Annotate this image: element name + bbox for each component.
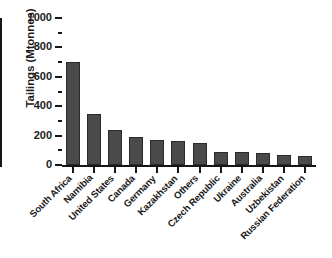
bar (108, 130, 122, 165)
x-axis-tick (177, 167, 179, 173)
bar (277, 155, 291, 165)
x-axis-line (62, 165, 316, 167)
y-axis-tick-minor (58, 149, 62, 151)
y-axis-tick-major (55, 135, 62, 137)
x-axis-tick (199, 167, 201, 173)
bar (235, 152, 249, 165)
x-axis-tick (304, 167, 306, 173)
y-axis-tick-label: 800 (0, 40, 52, 52)
y-axis-tick-major (55, 17, 62, 19)
y-axis-tick-major (55, 76, 62, 78)
x-axis-tick (220, 167, 222, 173)
x-axis-tick (135, 167, 137, 173)
y-axis-tick-minor (58, 91, 62, 93)
x-axis-tick (93, 167, 95, 173)
bar (66, 62, 80, 165)
y-axis-tick-major (55, 164, 62, 166)
y-axis-tick-major (55, 46, 62, 48)
y-axis-tick-label: 600 (0, 70, 52, 82)
bar (298, 156, 312, 165)
x-axis-tick (262, 167, 264, 173)
bar-chart: Tailings (Mtonnes) 02004006008001000 Sou… (0, 0, 332, 258)
bar (193, 143, 207, 165)
bar (171, 141, 185, 165)
y-axis-tick-label: 200 (0, 129, 52, 141)
bar (150, 140, 164, 165)
bar (87, 114, 101, 165)
x-axis-tick (283, 167, 285, 173)
bar (256, 153, 270, 165)
y-axis-tick-major (55, 105, 62, 107)
x-axis-tick (72, 167, 74, 173)
y-axis-tick-label: 1000 (0, 11, 52, 23)
y-axis-tick-minor (58, 61, 62, 63)
bar (129, 137, 143, 165)
y-axis-tick-minor (58, 32, 62, 34)
x-axis-tick (241, 167, 243, 173)
x-axis-tick (156, 167, 158, 173)
x-axis-tick (114, 167, 116, 173)
y-axis-tick-minor (58, 120, 62, 122)
y-axis-tick-label: 400 (0, 99, 52, 111)
bar (214, 152, 228, 165)
y-axis-tick-label: 0 (0, 158, 52, 170)
